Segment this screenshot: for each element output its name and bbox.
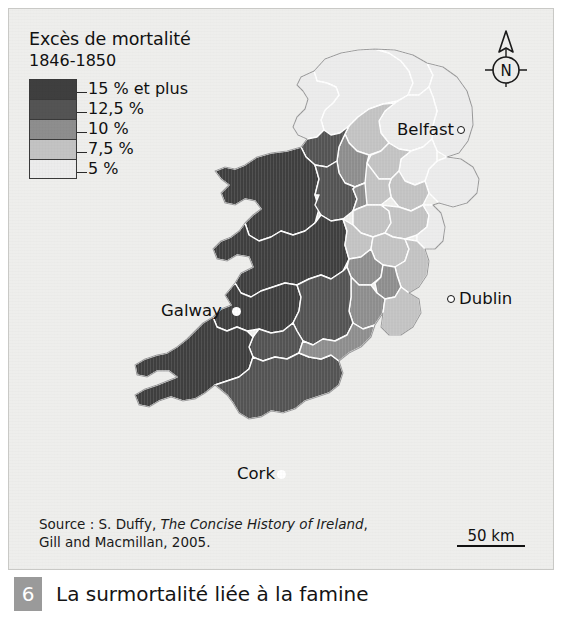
legend-tick: [77, 92, 87, 93]
city-label-galway: Galway: [161, 303, 241, 320]
city-marker-dublin: [447, 295, 455, 303]
city-name-cork: Cork: [237, 466, 275, 483]
figure-caption: La surmortalité liée à la famine: [56, 584, 369, 604]
figure-page: Excès de mortalité 1846-1850 15 % et plu…: [0, 0, 564, 622]
city-name-dublin: Dublin: [459, 291, 512, 308]
source-work-title: The Concise History of Ireland: [160, 516, 363, 532]
legend-label: 10 %: [88, 121, 129, 137]
legend-subtitle: 1846-1850: [29, 51, 249, 70]
legend-label: 5 %: [88, 161, 118, 177]
map-panel: Excès de mortalité 1846-1850 15 % et plu…: [8, 8, 554, 570]
legend-label: 15 % et plus: [88, 81, 188, 97]
legend-items: 15 % et plus12,5 %10 %7,5 %5 %: [29, 79, 249, 179]
legend-row: 10 %: [29, 119, 249, 139]
legend-swatch: [29, 79, 77, 99]
legend-swatch: [29, 99, 77, 119]
legend-label: 12,5 %: [88, 101, 144, 117]
scale-bar-line: [457, 545, 525, 547]
city-marker-galway: [232, 307, 241, 316]
legend-tick: [77, 112, 87, 113]
legend-row: 15 % et plus: [29, 79, 249, 99]
legend-title: Excès de mortalité: [29, 29, 249, 50]
compass-label: N: [500, 62, 511, 80]
city-name-galway: Galway: [161, 303, 222, 320]
legend-swatch: [29, 119, 77, 139]
figure-number-badge: 6: [14, 577, 42, 611]
legend-label: 7,5 %: [88, 141, 134, 157]
city-label-belfast: Belfast: [397, 122, 465, 139]
legend-tick: [77, 132, 87, 133]
city-marker-cork: [277, 470, 286, 479]
city-label-dublin: Dublin: [447, 291, 512, 308]
city-marker-belfast: [457, 126, 465, 134]
scale-bar-label: 50 km: [457, 528, 525, 545]
source-line-2: Gill and Macmillan, 2005.: [39, 533, 368, 551]
source-line-1: Source : S. Duffy, The Concise History o…: [39, 515, 368, 533]
compass-north-icon: N: [477, 25, 535, 91]
legend-row: 7,5 %: [29, 139, 249, 159]
city-name-belfast: Belfast: [397, 122, 454, 139]
source-prefix: Source : S. Duffy,: [39, 516, 160, 532]
source-suffix: ,: [364, 516, 368, 532]
legend-row: 12,5 %: [29, 99, 249, 119]
legend: Excès de mortalité 1846-1850 15 % et plu…: [29, 29, 249, 179]
source-note: Source : S. Duffy, The Concise History o…: [39, 515, 368, 551]
legend-swatch: [29, 159, 77, 179]
legend-row: 5 %: [29, 159, 249, 179]
scale-bar: 50 km: [457, 528, 525, 548]
city-label-cork: Cork: [237, 466, 286, 483]
legend-swatch: [29, 139, 77, 159]
legend-tick: [77, 152, 87, 153]
figure-footer: 6 La surmortalité liée à la famine: [8, 572, 554, 616]
legend-tick: [77, 172, 87, 173]
